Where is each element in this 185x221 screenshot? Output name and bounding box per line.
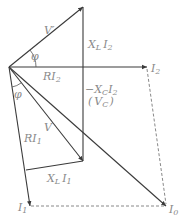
label-phi-bottom: φ	[14, 88, 22, 101]
phi-arc-bottom	[12, 83, 21, 87]
label-i1: I1	[17, 201, 27, 215]
label-xl-i2: XLI2	[87, 38, 113, 52]
label-xl-i1: XLI1	[46, 172, 72, 186]
label-phi-top: φ	[31, 50, 39, 63]
dashed-i2-to-i0	[147, 69, 166, 204]
label-v: V	[44, 121, 53, 134]
label-vc: (VC)	[88, 95, 114, 109]
label-i0: I0	[168, 203, 178, 217]
label-ri2: RI2	[42, 70, 61, 84]
v-prime-vector	[9, 7, 83, 67]
phasor-diagram: V′ φ XLI2 RI2 I2 −XCI2 (VC) φ V RI1 XLI1…	[0, 0, 185, 221]
xl-i1-segment	[26, 161, 83, 170]
label-i2: I2	[150, 62, 160, 76]
label-v-prime: V′	[44, 24, 55, 37]
label-ri1: RI1	[23, 132, 42, 146]
